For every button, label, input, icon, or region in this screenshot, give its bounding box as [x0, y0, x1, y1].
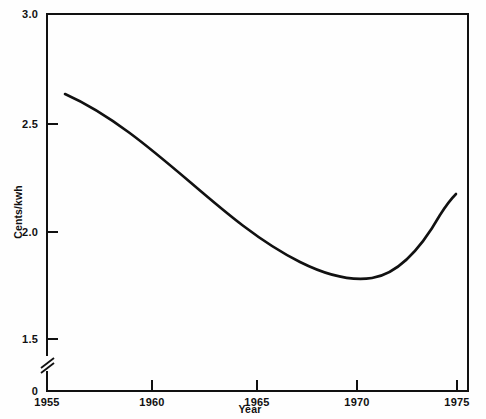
x-tick-label-1970: 1970	[327, 396, 387, 408]
chart-figure: 3.0 2.5 2.0 1.5 0 1955 1960 1965 1970 19…	[0, 0, 486, 419]
data-line-cents-per-kwh	[65, 94, 456, 279]
x-axis-label: Year	[220, 403, 280, 415]
y-tick-marks	[47, 14, 58, 339]
x-tick-marks	[47, 380, 457, 391]
chart-canvas	[0, 0, 486, 419]
y-tick-label-1-5: 1.5	[4, 333, 38, 345]
x-tick-label-1960: 1960	[122, 396, 182, 408]
plot-frame	[47, 14, 468, 391]
x-tick-label-1975: 1975	[427, 396, 486, 408]
y-tick-label-2-5: 2.5	[4, 118, 38, 130]
y-axis-label: Cents/kwh	[12, 172, 24, 252]
x-tick-label-1955: 1955	[17, 396, 77, 408]
y-tick-label-3-0: 3.0	[4, 8, 38, 20]
y-axis-break-icon	[41, 356, 54, 373]
